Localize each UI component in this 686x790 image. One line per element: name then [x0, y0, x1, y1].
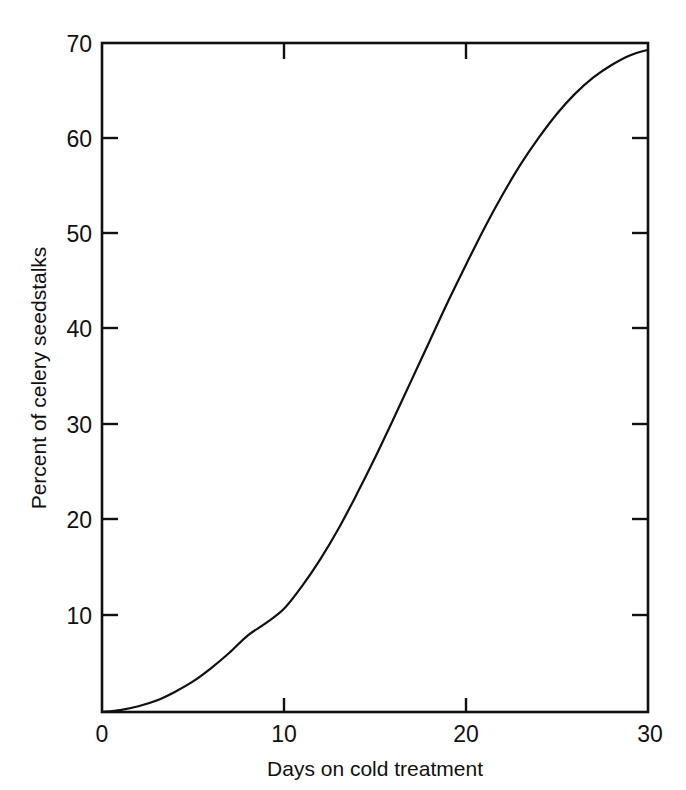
data-series-line — [102, 50, 648, 712]
x-tick-label-10: 10 — [271, 721, 297, 747]
x-axis-ticks-bottom — [284, 698, 466, 712]
y-tick-label-70: 70 — [66, 31, 92, 57]
plot-frame — [102, 43, 648, 712]
y-tick-label-40: 40 — [66, 316, 92, 342]
chart-figure: 70 60 50 40 30 20 10 0 10 20 30 Percent … — [0, 0, 686, 790]
x-tick-label-30: 30 — [637, 721, 663, 747]
y-tick-label-60: 60 — [66, 126, 92, 152]
chart-canvas: 70 60 50 40 30 20 10 0 10 20 30 Percent … — [0, 0, 686, 790]
y-axis-ticks-left — [102, 138, 118, 615]
y-tick-label-30: 30 — [66, 412, 92, 438]
y-axis-title: Percent of celery seedstalks — [27, 247, 50, 510]
y-tick-label-10: 10 — [66, 603, 92, 629]
x-tick-label-0: 0 — [96, 721, 109, 747]
y-tick-label-20: 20 — [66, 507, 92, 533]
y-tick-label-50: 50 — [66, 221, 92, 247]
x-axis-ticks-top — [284, 43, 466, 59]
axes-box — [102, 43, 648, 712]
x-tick-label-20: 20 — [453, 721, 479, 747]
y-axis-ticks-right — [632, 138, 648, 615]
x-axis-title: Days on cold treatment — [267, 757, 483, 780]
